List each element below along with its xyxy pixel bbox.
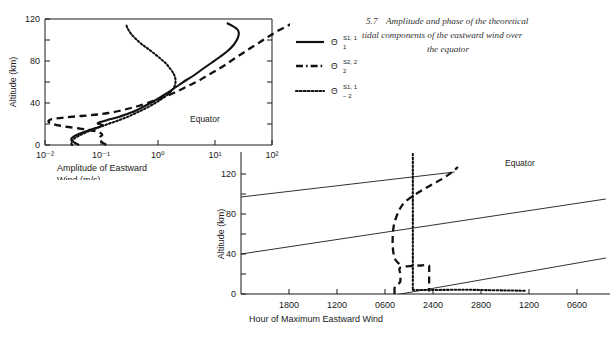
phase-xtick-1: 1800 bbox=[279, 300, 299, 310]
legend-superscript-0: S1, 1 bbox=[343, 35, 358, 41]
amplitude-ytick-120: 120 bbox=[25, 14, 40, 24]
amplitude-curve-s11-minus2 bbox=[71, 25, 175, 145]
caption-line-3: the equator bbox=[427, 44, 470, 54]
amplitude-ytick-40: 40 bbox=[30, 98, 40, 108]
phase-ytick-120: 120 bbox=[221, 169, 236, 179]
amplitude-curve-s11-1 bbox=[71, 23, 239, 145]
amplitude-xaxis-title-line1: Amplitude of Eastward bbox=[57, 163, 147, 173]
amplitude-yaxis-title: Altitude (km) bbox=[8, 57, 18, 108]
legend-subscript-2: − 2 bbox=[343, 93, 352, 99]
legend-entry-1: Θ S2, 2 2 bbox=[296, 59, 358, 74]
phase-xtick-7: 0600 bbox=[567, 300, 587, 310]
phase-ytick-0: 0 bbox=[231, 289, 236, 299]
legend-superscript-1: S2, 2 bbox=[343, 59, 358, 65]
legend-subscript-0: 1 bbox=[343, 44, 347, 50]
phase-xtick-6: 1200 bbox=[519, 300, 539, 310]
phase-axes bbox=[241, 152, 610, 294]
phase-chart: 0 40 80 120 1800 1200 0600 2400 2800 120… bbox=[215, 150, 612, 344]
amplitude-xaxis-title-line2: Wind (m/s) bbox=[57, 175, 101, 180]
amplitude-xtick-2: 10⁻¹ bbox=[92, 150, 110, 160]
legend-symbol-theta-1: Θ bbox=[331, 61, 338, 71]
legend-superscript-2: S1, 1 bbox=[343, 84, 358, 90]
legend-entry-0: Θ S1, 1 1 bbox=[296, 35, 358, 50]
figure-caption: 5.7 Amplitude and phase of the theoretic… bbox=[362, 16, 529, 54]
figure-root: 0 40 80 120 10⁻² 10⁻¹ 10⁰ 10¹ 10² Amplit… bbox=[0, 0, 612, 344]
caption-line-1: Amplitude and phase of the theoretical bbox=[385, 16, 529, 26]
phase-reference-line-upper bbox=[241, 172, 455, 197]
legend-subscript-1: 2 bbox=[343, 68, 347, 74]
phase-y-ticks bbox=[241, 174, 246, 294]
amplitude-ytick-80: 80 bbox=[30, 56, 40, 66]
phase-xtick-3: 0600 bbox=[375, 300, 395, 310]
amplitude-ytick-0: 0 bbox=[35, 140, 40, 150]
phase-xaxis-title: Hour of Maximum Eastward Wind bbox=[249, 314, 383, 324]
caption-line-2: tidal components of the eastward wind ov… bbox=[362, 30, 523, 40]
phase-ytick-80: 80 bbox=[226, 209, 236, 219]
phase-reference-line-middle bbox=[241, 199, 606, 254]
phase-equator-label: Equator bbox=[505, 158, 535, 168]
legend-symbol-theta-2: Θ bbox=[331, 86, 338, 96]
phase-yaxis-title: Altitude (km) bbox=[216, 209, 226, 260]
amplitude-xtick-3: 10⁰ bbox=[151, 150, 165, 160]
phase-xtick-5: 2800 bbox=[471, 300, 491, 310]
phase-xtick-4: 2400 bbox=[423, 300, 443, 310]
phase-ytick-40: 40 bbox=[226, 249, 236, 259]
legend-and-caption: Θ S1, 1 1 Θ S2, 2 2 Θ S1, 1 − 2 5.7 Ampl… bbox=[290, 0, 612, 120]
amplitude-curves bbox=[48, 21, 290, 145]
legend-entry-2: Θ S1, 1 − 2 bbox=[296, 84, 358, 99]
caption-number: 5.7 bbox=[366, 16, 378, 26]
phase-curve-s22-2-upper bbox=[393, 167, 458, 264]
phase-axis-lines bbox=[241, 152, 610, 294]
amplitude-xtick-1: 10⁻² bbox=[36, 150, 54, 160]
phase-curve-s11-minus2-horizontal bbox=[413, 290, 527, 291]
phase-curves bbox=[393, 154, 527, 294]
amplitude-curve-s22-2 bbox=[48, 21, 290, 145]
amplitude-equator-label: Equator bbox=[190, 114, 220, 124]
legend-symbol-theta-0: Θ bbox=[331, 37, 338, 47]
phase-xtick-2: 1200 bbox=[327, 300, 347, 310]
